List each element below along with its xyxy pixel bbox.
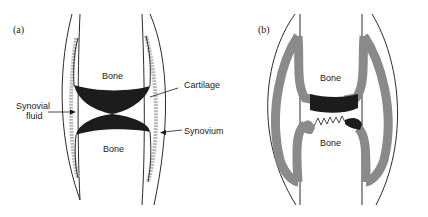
synovium-leader [164,130,182,132]
joint-diagram [0,0,428,217]
cartilage-bottom [76,114,150,135]
panel-b-drawing [268,14,398,205]
cartilage-top-b [310,94,358,113]
panel-b-label: (b) [258,24,270,35]
bone-top-label-a: Bone [102,71,123,81]
panel-a-drawing [48,14,182,205]
cartilage-label: Cartilage [184,80,220,90]
bone-top-label-b: Bone [320,73,341,83]
skin-outline-right [150,14,166,205]
synovial-fluid-label-line1: Synovial [16,101,50,111]
synovial-fluid-label-line2: fluid [26,111,43,121]
bone-outline-right [142,14,144,205]
cartilage-top [74,85,150,114]
bone-bottom-label-a: Bone [103,144,124,154]
bone-outline-left [78,14,80,200]
cartilage-fragment-b [345,118,362,130]
synovium-label: Synovium [184,126,224,136]
panel-a-label: (a) [13,24,24,35]
synovium-arrow-icon [160,130,166,135]
erosion-zigzag [314,116,345,126]
bone-bottom-label-b: Bone [320,138,341,148]
synovium-right [146,36,156,182]
